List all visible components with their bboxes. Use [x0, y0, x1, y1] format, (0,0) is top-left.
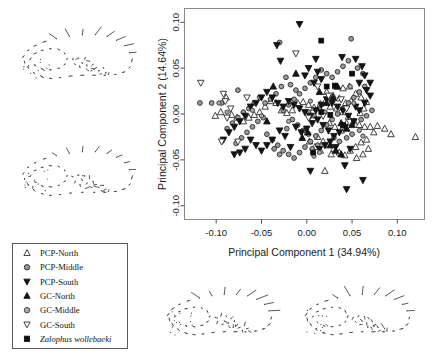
data-point — [313, 134, 318, 139]
landmark-point — [88, 70, 89, 71]
landmark-point — [170, 332, 171, 333]
landmark-point — [235, 325, 236, 326]
landmark-point — [331, 334, 332, 335]
landmark-point — [49, 64, 50, 65]
data-point — [340, 85, 346, 91]
y-tick-label: 0.00 — [170, 105, 181, 124]
landmark-point — [364, 316, 365, 317]
landmark-point — [372, 321, 373, 322]
landmark-point — [23, 66, 24, 67]
landmark-vector — [107, 31, 114, 36]
landmark-point — [75, 181, 76, 182]
landmark-point — [209, 316, 210, 317]
landmark-point — [268, 310, 269, 311]
data-point — [367, 80, 374, 86]
data-point — [245, 130, 250, 135]
landmark-point — [95, 151, 96, 152]
data-point — [250, 108, 254, 112]
landmark-point — [40, 59, 41, 60]
landmark-point — [56, 155, 57, 156]
landmark-point — [340, 333, 341, 334]
landmark-point — [28, 184, 29, 185]
data-point — [225, 110, 229, 114]
legend-marker-circle-gray-small — [24, 307, 29, 312]
landmark-point — [105, 72, 106, 73]
data-point — [296, 22, 303, 28]
landmark-point — [123, 189, 124, 190]
data-point — [364, 113, 369, 118]
data-point — [244, 95, 250, 101]
landmark-point — [264, 304, 265, 305]
landmark-point — [337, 297, 338, 298]
landmark-point — [64, 181, 65, 182]
landmark-vector — [117, 155, 123, 157]
data-point — [381, 125, 387, 131]
landmark-point — [64, 170, 65, 171]
landmark-point — [226, 316, 227, 317]
landmark-point — [367, 327, 368, 328]
landmark-point — [67, 175, 68, 176]
landmark-vector — [66, 148, 69, 153]
data-point — [324, 71, 329, 76]
landmark-point — [332, 307, 333, 308]
data-point — [324, 84, 329, 89]
landmark-point — [38, 183, 39, 184]
landmark-point — [394, 299, 395, 300]
landmark-point — [324, 325, 325, 326]
landmark-point — [36, 182, 37, 183]
data-point — [412, 133, 418, 139]
data-point — [332, 123, 338, 129]
landmark-point — [362, 331, 363, 332]
landmark-point — [78, 175, 79, 176]
legend-label: GC-Middle — [40, 305, 80, 315]
landmark-point — [186, 333, 187, 334]
landmark-point — [33, 189, 34, 190]
landmark-point — [180, 324, 181, 325]
data-point — [360, 177, 367, 183]
landmark-point — [115, 74, 116, 75]
landmark-point — [96, 184, 97, 185]
landmark-point — [215, 317, 216, 318]
data-point — [308, 99, 312, 103]
landmark-point — [28, 167, 29, 168]
landmark-vector — [395, 296, 404, 300]
data-point — [319, 110, 324, 115]
landmark-point — [324, 308, 325, 309]
landmark-point — [316, 328, 317, 329]
landmark-point — [42, 186, 43, 187]
data-point — [209, 101, 214, 106]
landmark-point — [42, 50, 43, 51]
landmark-point — [124, 162, 125, 163]
landmark-point — [107, 36, 108, 37]
landmark-point — [317, 304, 318, 305]
data-point — [303, 86, 308, 91]
data-point — [335, 69, 340, 74]
landmark-point — [44, 41, 45, 42]
landmark-point — [30, 175, 31, 176]
landmark-point — [186, 325, 187, 326]
landmark-point — [172, 308, 173, 309]
landmark-point — [91, 70, 92, 71]
landmark-point — [92, 181, 93, 182]
data-point — [356, 122, 362, 128]
y-tick-label: 0.05 — [170, 59, 181, 78]
landmark-point — [172, 326, 173, 327]
legend-label: GC-North — [40, 291, 76, 301]
series-pcp-south — [220, 22, 373, 193]
landmark-point — [201, 307, 202, 308]
landmark-point — [326, 316, 327, 317]
landmark-point — [382, 325, 383, 326]
landmark-vector — [248, 290, 256, 295]
landmark-point — [366, 323, 367, 324]
y-axis-ticks — [181, 22, 185, 205]
landmark-vector — [82, 146, 83, 151]
data-points — [197, 22, 418, 193]
landmark-point — [56, 38, 57, 39]
landmark-point — [327, 325, 328, 326]
data-point — [293, 51, 299, 57]
data-point — [388, 131, 394, 137]
landmark-point — [307, 310, 308, 311]
x-axis-ticks — [216, 220, 397, 224]
data-point — [350, 71, 355, 76]
landmark-point — [40, 62, 41, 63]
